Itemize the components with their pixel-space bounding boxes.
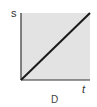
chart-d: s t D [0,0,97,107]
x-axis-label: t [82,84,85,95]
chart-caption: D [51,95,58,105]
y-axis-label: s [11,8,17,19]
